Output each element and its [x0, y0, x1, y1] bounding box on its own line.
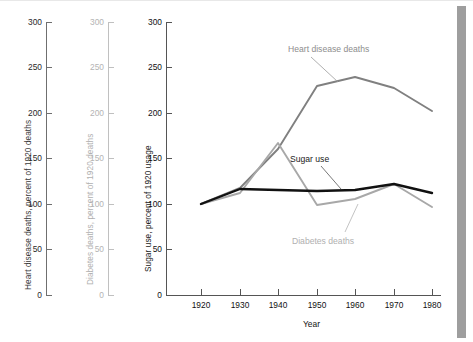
y-axis-spine-sugar-use: [166, 22, 172, 295]
series-line-diabetes-deaths: [201, 143, 432, 207]
vertical-scrollbar[interactable]: [457, 6, 466, 338]
leader-line-diabetes-deaths: [345, 204, 358, 232]
leader-line-heart-disease: [311, 57, 338, 82]
y-axis-spine-heart-disease: [46, 22, 52, 295]
y-axis-spine-diabetes: [108, 22, 114, 295]
x-axis-spine: [166, 289, 441, 295]
plot-canvas: [0, 0, 473, 342]
chart-figure: Heart disease deaths, percent of 1920 de…: [0, 0, 473, 342]
leader-line-sugar-use: [321, 166, 341, 189]
